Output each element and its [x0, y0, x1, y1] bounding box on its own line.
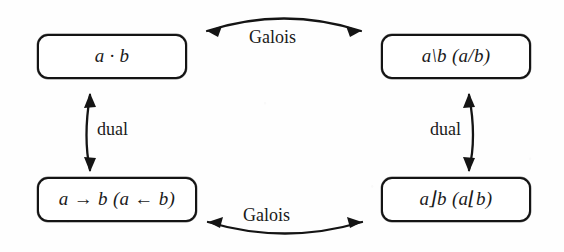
- edge-label-dual-left: dual: [97, 120, 128, 138]
- edge-label-dual-right: dual: [430, 120, 461, 138]
- dual-left-arrow: [84, 93, 96, 172]
- node-label-product: a · b: [95, 46, 130, 67]
- node-label-implication: a → b (a ← b): [59, 189, 175, 210]
- galois-dual-diagram: a · b a\b (a/b) a → b (a ← b) a⌋b (a⌊b) …: [0, 0, 564, 252]
- node-label-residual: a\b (a/b): [422, 46, 491, 67]
- edge-label-galois-bottom: Galois: [243, 206, 290, 224]
- node-box-implication: a → b (a ← b): [37, 177, 197, 222]
- node-box-residual: a\b (a/b): [381, 34, 531, 79]
- dual-right-arrow: [463, 93, 475, 172]
- node-box-difference: a⌋b (a⌊b): [381, 177, 531, 222]
- node-box-product: a · b: [37, 34, 187, 79]
- node-label-difference: a⌋b (a⌊b): [420, 189, 493, 210]
- edge-label-galois-top: Galois: [249, 28, 296, 46]
